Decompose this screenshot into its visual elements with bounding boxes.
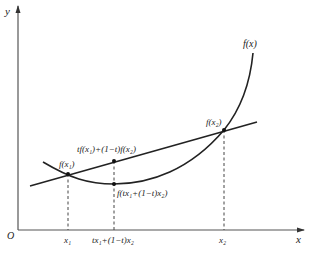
- origin-label: O: [7, 230, 14, 241]
- point-chord-mid: [112, 159, 116, 163]
- curve-label: f(x): [243, 38, 258, 50]
- label-curve-mid: f(tx₁+(1−t)x₂): [117, 188, 167, 198]
- x-axis-label: x: [295, 233, 301, 245]
- tick-x2: x₂: [218, 235, 226, 245]
- tick-x1: x₁: [63, 235, 71, 245]
- label-chord-mid: tf(x₁)+(1−t)f(x₂): [77, 144, 136, 154]
- point-f-x2: [222, 128, 226, 132]
- y-axis-label: y: [4, 5, 10, 17]
- convex-function-diagram: y x O f(x) f(x₁) f(x₂) tf(x₁)+(1−t)f(x₂)…: [0, 0, 310, 257]
- label-f-x1: f(x₁): [59, 159, 75, 169]
- label-f-x2: f(x₂): [206, 117, 222, 127]
- point-f-x1: [66, 172, 70, 176]
- tick-xmid: tx₁+(1−t)x₂: [92, 235, 134, 245]
- point-curve-mid: [112, 182, 116, 186]
